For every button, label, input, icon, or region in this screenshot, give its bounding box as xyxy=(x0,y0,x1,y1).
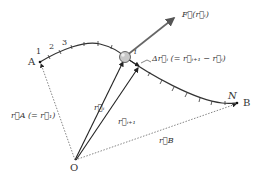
label-n: N xyxy=(228,91,237,101)
label-r-i: r⃗ᵢ xyxy=(94,104,104,112)
label-force: F⃗(r⃗ᵢ) xyxy=(182,11,209,19)
label-r-i1: r⃗ᵢ₊₁ xyxy=(118,118,136,126)
label-r-a: r⃗A (= r⃗₁) xyxy=(11,112,55,120)
label-b: B xyxy=(243,98,250,108)
r-i1-vector xyxy=(76,68,138,160)
delta-leader xyxy=(141,60,151,63)
path-curve xyxy=(40,43,237,103)
label-a: A xyxy=(28,57,35,67)
particle xyxy=(120,52,131,63)
work-path-diagram: A 1 2 3 i F⃗(r⃗ᵢ) Δr⃗ᵢ (= r⃗ᵢ₊₁ − r⃗ᵢ) r… xyxy=(0,0,260,182)
diagram-svg xyxy=(0,0,260,182)
particle-highlight xyxy=(121,53,125,57)
r-b-vector xyxy=(75,104,236,160)
label-seg-2: 2 xyxy=(49,43,54,51)
point-a xyxy=(39,61,42,64)
label-delta-r: Δr⃗ᵢ (= r⃗ᵢ₊₁ − r⃗ᵢ) xyxy=(152,55,226,63)
label-i: i xyxy=(134,48,137,56)
label-r-b: r⃗B xyxy=(159,137,174,145)
label-o: O xyxy=(70,163,78,173)
label-seg-1: 1 xyxy=(36,48,41,56)
label-seg-3: 3 xyxy=(62,39,67,47)
point-b xyxy=(236,102,239,105)
